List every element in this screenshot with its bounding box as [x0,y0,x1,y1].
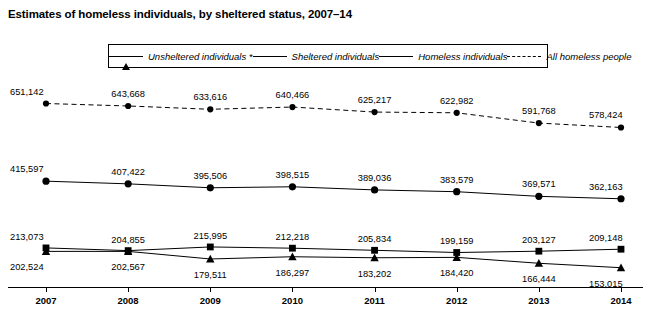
data-point-marker [453,188,460,195]
data-point-marker [207,184,214,191]
x-axis-tick [292,287,293,292]
data-point-marker [43,100,49,106]
data-point-marker [371,186,378,193]
data-label: 183,202 [358,269,392,279]
legend-label-all-homeless-people: All homeless people [546,51,631,62]
data-point-marker [289,183,296,190]
data-label: 203,127 [522,235,556,245]
data-point-marker [42,178,49,185]
x-axis-label-2014: 2014 [610,295,631,306]
data-label: 383,579 [440,175,474,185]
legend-item-homeless-individuals: Homeless individuals [379,51,507,62]
data-label: 415,597 [10,164,44,174]
data-label: 213,073 [10,232,44,242]
data-label: 407,422 [111,167,145,177]
data-point-marker [125,103,131,109]
x-axis-tick [375,287,376,292]
data-point-marker [535,248,542,255]
data-label: 166,444 [522,274,556,284]
data-label: 625,217 [358,95,392,105]
x-axis-tick [128,287,129,292]
x-axis-label-2008: 2008 [118,295,139,306]
data-label: 186,297 [276,268,310,278]
legend-label-unsheltered: Unsheltered individuals * [148,51,253,62]
data-label: 179,511 [194,270,227,280]
legend-swatch-all-homeless-people-icon [507,51,541,61]
legend-item-sheltered: Sheltered individuals [253,51,380,62]
data-label: 199,159 [440,236,474,246]
data-label: 578,424 [589,110,623,120]
data-point-marker [289,245,296,252]
x-axis-label-2012: 2012 [446,295,467,306]
data-point-marker [371,247,378,254]
x-axis-tick [46,287,47,292]
data-point-marker [125,180,132,187]
legend-item-unsheltered: Unsheltered individuals * [109,51,253,62]
data-point-marker [371,109,377,115]
x-axis-line [8,287,643,288]
data-label: 202,567 [111,262,145,272]
data-label: 205,834 [358,234,392,244]
data-point-marker [207,244,214,251]
legend-swatch-sheltered-icon [253,51,287,61]
x-axis-label-2009: 2009 [200,295,221,306]
data-point-marker [617,195,624,202]
page-title: Estimates of homeless individuals, by sh… [8,8,352,20]
data-label: 184,420 [440,268,474,278]
data-label: 212,218 [276,232,310,242]
data-label: 633,616 [193,92,227,102]
x-axis-label-2011: 2011 [364,295,385,306]
x-axis-label-2010: 2010 [282,295,303,306]
chart-plot-area: 651,142643,668633,616640,466625,217622,9… [8,76,643,284]
data-point-marker [454,110,460,116]
x-axis-tick [210,287,211,292]
data-label: 643,668 [111,89,145,99]
data-point-marker [536,120,542,126]
data-label: 651,142 [10,87,44,97]
data-label: 369,571 [522,179,556,189]
legend-label-sheltered: Sheltered individuals [292,51,380,62]
data-label: 362,163 [589,182,623,192]
data-label: 389,036 [358,173,392,183]
data-label: 395,506 [193,171,227,181]
legend-label-homeless-individuals: Homeless individuals [418,51,507,62]
chart-legend: Unsheltered individuals * Sheltered indi… [108,44,548,68]
data-point-marker [618,246,625,253]
x-axis-tick [457,287,458,292]
data-label: 209,148 [589,233,623,243]
x-axis-tick [539,287,540,292]
data-label: 640,466 [276,90,310,100]
legend-swatch-unsheltered-icon [109,51,143,61]
x-axis: 20072008200920102011201220132014 [8,287,643,317]
data-label: 204,855 [111,235,145,245]
data-label: 215,995 [193,231,227,241]
data-point-marker [289,104,295,110]
data-label: 591,768 [522,106,556,116]
data-point-marker [535,193,542,200]
data-point-marker [207,106,213,112]
data-point-marker [618,124,624,130]
x-axis-tick [621,287,622,292]
legend-swatch-homeless-individuals-icon [379,51,413,61]
data-label: 398,515 [276,170,310,180]
x-axis-label-2007: 2007 [35,295,56,306]
data-label: 202,524 [10,262,44,272]
data-label: 622,982 [440,96,474,106]
x-axis-label-2013: 2013 [528,295,549,306]
legend-item-all-homeless-people: All homeless people [507,51,631,62]
